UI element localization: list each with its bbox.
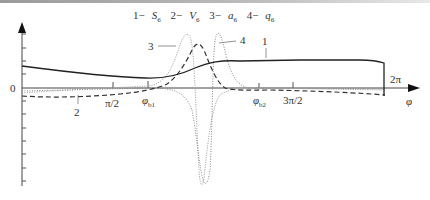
- curve-label-1: 1: [262, 35, 268, 47]
- zero-label: 0: [10, 82, 16, 94]
- y-axis-arrow-icon: [18, 22, 26, 33]
- curve-label-4: 4: [240, 34, 246, 46]
- chart-plot: [0, 0, 430, 200]
- curve-label-leaders: [78, 41, 266, 104]
- x-axis-label: φ: [406, 95, 412, 107]
- tick-label-phi-b1: φb1: [142, 94, 155, 111]
- curve-s6: [22, 60, 384, 96]
- legend: 1−S6 2−V6 3−a6 4−q6: [133, 9, 281, 24]
- tick-label-two-pi: 2π: [390, 73, 401, 85]
- legend-item-s6: 1−S6: [133, 9, 161, 21]
- legend-item-q6: 4−q6: [247, 9, 275, 21]
- legend-item-a6: 3−a6: [209, 9, 237, 21]
- legend-item-v6: 2−V6: [170, 9, 199, 21]
- tick-label-half-pi: π/2: [105, 97, 119, 109]
- x-axis-arrow-icon: [408, 84, 420, 92]
- curve-label-2: 2: [74, 106, 80, 118]
- y-axis: [18, 22, 26, 186]
- x-axis: [22, 81, 420, 92]
- tick-label-phi-b2: φb2: [253, 94, 266, 111]
- curve-label-3: 3: [148, 40, 154, 52]
- tick-label-three-half-pi: 3π/2: [283, 94, 303, 106]
